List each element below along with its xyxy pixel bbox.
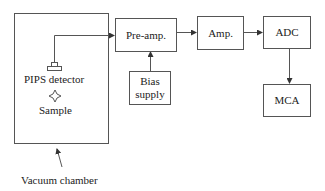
- pips-detector-label: PIPS detector: [24, 73, 84, 85]
- mca-label: MCA: [274, 94, 299, 107]
- mca-block: MCA: [263, 84, 311, 117]
- sample-label: Sample: [39, 104, 72, 116]
- adc-block: ADC: [263, 16, 311, 49]
- bias-label-line1: Bias: [140, 75, 160, 88]
- chamber-pointer-line: [57, 149, 62, 167]
- detector-to-preamp-wire: [55, 36, 115, 63]
- bias-supply-block: Bias supply: [129, 71, 171, 105]
- amp-label: Amp.: [208, 27, 233, 40]
- preamp-block: Pre-amp.: [115, 18, 177, 52]
- vacuum-chamber-label: Vacuum chamber: [21, 174, 98, 186]
- bias-label-line2: supply: [135, 88, 164, 101]
- pips-detector-icon: [48, 63, 62, 71]
- adc-label: ADC: [275, 26, 298, 39]
- preamp-label: Pre-amp.: [126, 29, 166, 42]
- sample-icon: [49, 90, 61, 102]
- amp-block: Amp.: [197, 16, 244, 50]
